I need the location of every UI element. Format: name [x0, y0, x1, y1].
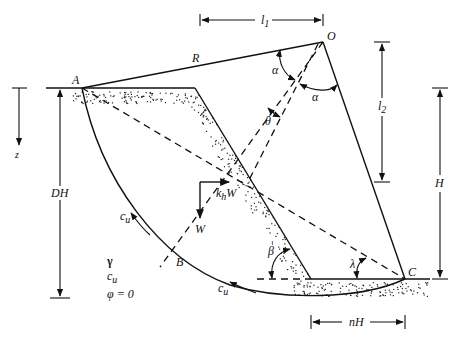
shear-strength-arrows [131, 213, 256, 293]
label-lambda: λ [349, 257, 355, 271]
label-theta: θ [265, 114, 271, 128]
slope-stability-diagram: O A B C R l1 l2 H DH nH z α α θ β λ W kh… [0, 0, 463, 343]
alpha-angle-2-arc [300, 84, 337, 90]
beta-angle-arc [272, 249, 290, 278]
label-alpha-1: α [272, 63, 279, 77]
label-H: H [434, 176, 445, 190]
label-B: B [176, 255, 184, 269]
cu-arrow-bottom [230, 282, 256, 293]
label-phi: φ = 0 [107, 287, 134, 301]
dimension-lines [12, 14, 448, 329]
centroid-line-dashed [248, 44, 318, 182]
label-beta: β [267, 244, 274, 258]
label-C: C [408, 265, 417, 279]
label-l1: l1 [261, 13, 269, 29]
label-A: A [71, 73, 80, 87]
alpha-angle-1-arc [280, 50, 295, 80]
slip-circle-arc [82, 88, 405, 296]
label-W: W [195, 222, 206, 236]
radius-OC [323, 42, 405, 279]
radius-to-B-dashed [160, 42, 323, 267]
label-gamma: γ [106, 254, 113, 268]
label-alpha-2: α [312, 90, 319, 104]
lambda-angle-arc [357, 258, 366, 278]
label-cu-left: cu [120, 209, 130, 225]
slope-face [195, 88, 311, 279]
label-soil-cu: cu [107, 269, 117, 285]
label-DH: DH [50, 186, 70, 200]
radius-OA [82, 42, 323, 88]
label-khW: khW [216, 186, 237, 202]
angle-markers [268, 50, 366, 278]
label-z: z [14, 149, 19, 160]
label-O: O [327, 29, 336, 43]
label-R: R [191, 51, 200, 65]
chord-AC [82, 88, 405, 279]
label-nH: nH [349, 315, 365, 329]
construction-lines [82, 42, 405, 279]
radii [82, 42, 405, 279]
label-l2: l2 [378, 99, 386, 115]
